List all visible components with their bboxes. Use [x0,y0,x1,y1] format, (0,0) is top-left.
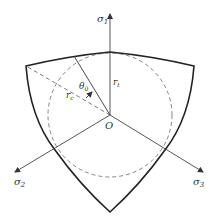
theta-label: θ0 [79,81,88,92]
diagram-canvas: σ1 σ2 σ3 O rt rc θ0 [0,0,220,223]
sigma3-axis [110,115,203,172]
sigma2-axis [15,115,110,172]
rc-label: rc [66,90,74,101]
sigma1-label: σ1 [97,13,108,26]
theta-arrow [86,92,92,98]
sigma3-label: σ3 [193,176,205,189]
rt-label: rt [113,77,120,88]
origin-label: O [105,120,113,131]
sigma2-label: σ2 [14,176,26,189]
failure-surface-diagram: σ1 σ2 σ3 O rt rc θ0 [0,0,220,223]
